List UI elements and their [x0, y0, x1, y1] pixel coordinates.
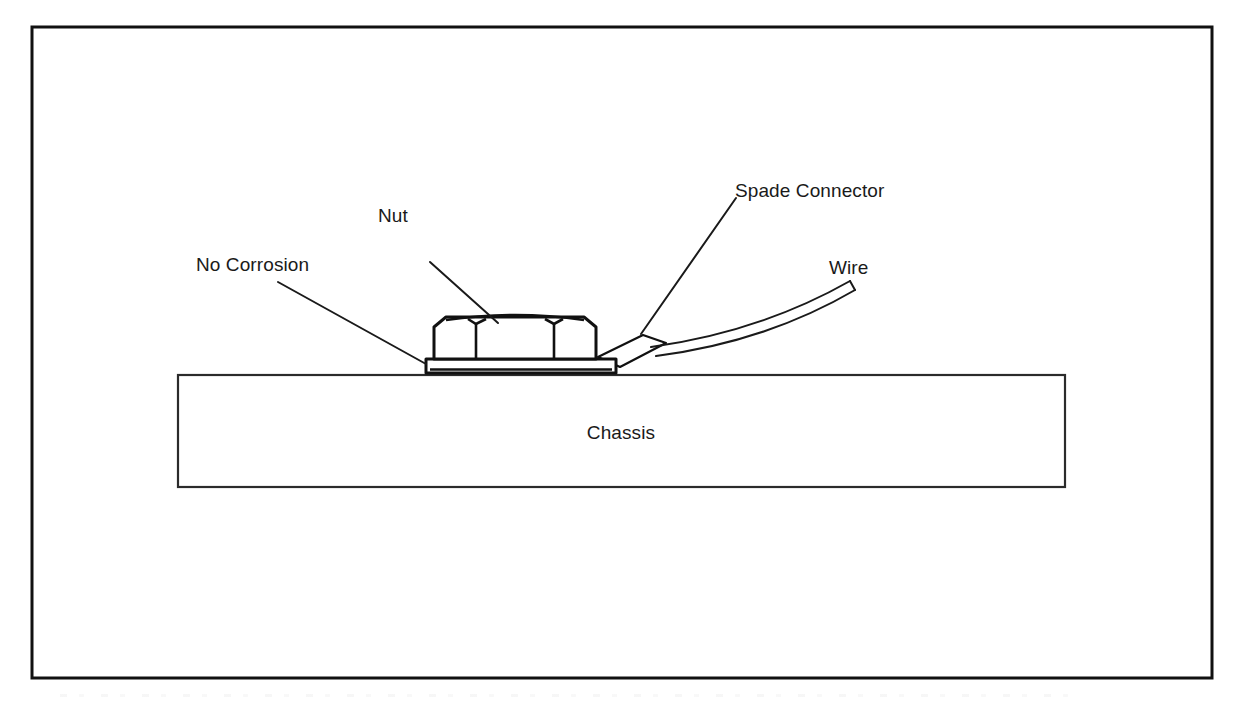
leader-line-nut: [430, 262, 498, 323]
leader-line-no-corrosion: [278, 282, 426, 364]
washer-part: [426, 359, 616, 373]
label-no-corrosion: No Corrosion: [196, 254, 309, 275]
nut-part: [434, 315, 596, 359]
label-spade-connector: Spade Connector: [735, 180, 885, 201]
figure-container: No Corrosion Nut Spade Connector Wire Ch…: [0, 0, 1240, 707]
label-chassis: Chassis: [587, 422, 655, 443]
leader-line-spade-connector: [641, 198, 736, 334]
scan-artifact: [60, 694, 1080, 697]
label-wire: Wire: [829, 257, 868, 278]
wire-part: [651, 281, 855, 356]
label-nut: Nut: [378, 205, 408, 226]
diagram-canvas: No Corrosion Nut Spade Connector Wire Ch…: [0, 0, 1240, 707]
